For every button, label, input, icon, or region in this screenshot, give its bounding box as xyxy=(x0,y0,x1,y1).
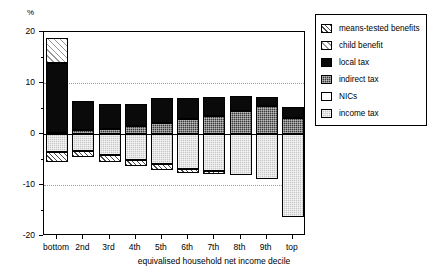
x-tick-label-7th: 7th xyxy=(207,242,219,252)
legend-swatch-icon xyxy=(321,41,332,50)
legend-label: NICs xyxy=(339,92,357,101)
legend-item-child-benefit[interactable]: child benefit xyxy=(316,37,426,54)
bar-segment-local-tax xyxy=(151,98,173,124)
legend-swatch-icon xyxy=(321,92,332,101)
bar-segment-income-tax xyxy=(72,134,94,151)
bar-segment-income-tax xyxy=(46,134,68,152)
x-tick-label-4th: 4th xyxy=(129,242,141,252)
y-tick-label: -20 xyxy=(13,230,35,240)
bar-segment-indirect-tax xyxy=(125,126,147,134)
bar-segment-income-tax xyxy=(177,134,199,169)
bar-segment-means-tested-benefits xyxy=(203,171,225,174)
bar-segment-local-tax xyxy=(177,98,199,119)
bar-segment-child-benefit xyxy=(46,38,68,62)
x-tick-label-top: top xyxy=(286,242,298,252)
legend-item-means-tested-benefits[interactable]: means-tested benefits xyxy=(316,20,426,37)
x-tick-mark xyxy=(292,235,293,239)
y-tick-mark xyxy=(39,133,43,134)
x-tick-mark xyxy=(213,235,214,239)
bar-segment-local-tax xyxy=(125,104,147,126)
plot-area xyxy=(43,31,305,235)
y-tick-label: 10 xyxy=(13,77,35,87)
legend-item-income-tax[interactable]: income tax xyxy=(316,105,426,122)
legend-item-NICs[interactable]: NICs xyxy=(316,88,426,105)
y-minor-tick-mark xyxy=(41,159,44,160)
x-tick-label-2nd: 2nd xyxy=(75,242,89,252)
legend-label: means-tested benefits xyxy=(339,24,420,33)
bar-segment-local-tax xyxy=(230,96,252,111)
bar-segment-income-tax xyxy=(99,134,121,155)
bar-segment-income-tax xyxy=(203,134,225,171)
bar-segment-local-tax xyxy=(256,97,278,107)
x-axis-title: equivalised household net income decile xyxy=(0,256,428,266)
y-minor-tick-mark xyxy=(41,108,44,109)
bar-segment-income-tax xyxy=(256,134,278,179)
x-tick-label-bottom: bottom xyxy=(43,242,69,252)
bar-segment-indirect-tax xyxy=(256,106,278,134)
x-tick-label-6th: 6th xyxy=(181,242,193,252)
bar-segment-local-tax xyxy=(46,63,68,133)
x-tick-mark xyxy=(109,235,110,239)
x-tick-label-8th: 8th xyxy=(234,242,246,252)
y-tick-mark xyxy=(39,184,43,185)
legend-item-local-tax[interactable]: local tax xyxy=(316,54,426,71)
x-tick-mark xyxy=(266,235,267,239)
y-tick-label: 20 xyxy=(13,26,35,36)
bar-segment-local-tax xyxy=(203,97,225,115)
bar-segment-means-tested-benefits xyxy=(177,169,199,173)
bar-segment-means-tested-benefits xyxy=(125,160,147,167)
y-tick-mark xyxy=(39,82,43,83)
x-tick-mark xyxy=(56,235,57,239)
x-tick-mark xyxy=(82,235,83,239)
bar-segment-means-tested-benefits xyxy=(72,151,94,158)
bar-segment-means-tested-benefits xyxy=(46,152,68,161)
bar-segment-local-tax xyxy=(99,104,121,129)
x-tick-mark xyxy=(135,235,136,239)
x-tick-label-5th: 5th xyxy=(155,242,167,252)
bar-segment-income-tax xyxy=(125,134,147,160)
x-tick-mark xyxy=(187,235,188,239)
bar-segment-income-tax xyxy=(151,134,173,164)
y-tick-label: 0 xyxy=(13,128,35,138)
legend-swatch-icon xyxy=(321,24,332,33)
legend-label: indirect tax xyxy=(339,75,379,84)
legend-swatch-icon xyxy=(321,109,332,118)
bar-segment-indirect-tax xyxy=(282,118,304,134)
legend-label: local tax xyxy=(339,58,369,67)
x-tick-mark xyxy=(240,235,241,239)
bar-segment-indirect-tax xyxy=(177,119,199,134)
y-tick-label: -10 xyxy=(13,179,35,189)
y-minor-tick-mark xyxy=(41,57,44,58)
bar-segment-indirect-tax xyxy=(230,111,252,134)
bar-segment-means-tested-benefits xyxy=(99,155,121,161)
legend-label: income tax xyxy=(339,109,379,118)
legend-label: child benefit xyxy=(339,41,383,50)
zero-line xyxy=(44,134,304,135)
legend-swatch-icon xyxy=(321,58,332,67)
bar-segment-income-tax xyxy=(230,134,252,175)
y-axis-unit-label: % xyxy=(27,8,34,17)
bar-segment-local-tax xyxy=(282,107,304,118)
bar-segment-indirect-tax xyxy=(151,123,173,134)
bar-segment-income-tax xyxy=(282,134,304,217)
chart-legend: means-tested benefitschild benefitlocal … xyxy=(315,14,427,126)
x-tick-label-9th: 9th xyxy=(260,242,272,252)
bar-segment-means-tested-benefits xyxy=(151,164,173,170)
bar-segment-local-tax xyxy=(72,101,94,130)
x-tick-mark xyxy=(161,235,162,239)
x-tick-label-3rd: 3rd xyxy=(102,242,114,252)
y-tick-mark xyxy=(39,31,43,32)
y-minor-tick-mark xyxy=(41,210,44,211)
legend-item-indirect-tax[interactable]: indirect tax xyxy=(316,71,426,88)
y-tick-mark xyxy=(39,235,43,236)
legend-swatch-icon xyxy=(321,75,332,84)
chart-root: % 20100-10-20 bottom2nd3rd4th5th6th7th8t… xyxy=(0,0,428,276)
bar-segment-indirect-tax xyxy=(203,116,225,134)
